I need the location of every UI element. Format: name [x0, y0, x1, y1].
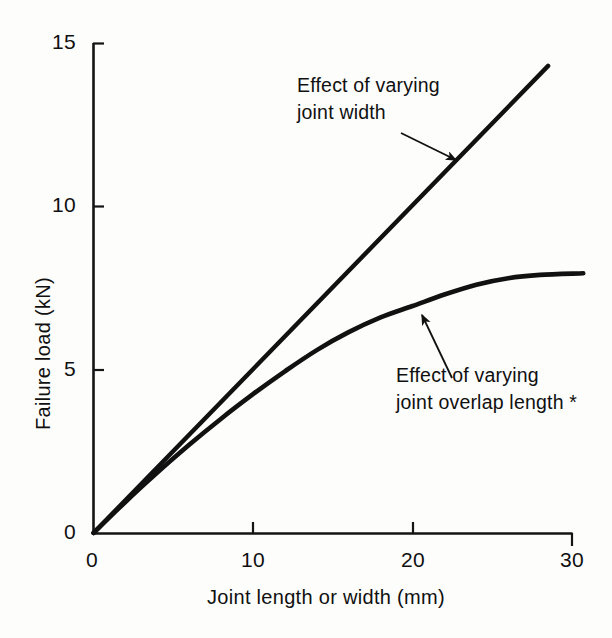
y-tick-label-0: 0 — [64, 520, 76, 544]
annotation-joint-width-line1: Effect of varying — [297, 72, 440, 99]
annotation-joint-overlap-line2: joint overlap length * — [396, 389, 577, 416]
annotation-joint-width: Effect of varying joint width — [297, 72, 440, 126]
annotation-joint-overlap: Effect of varying joint overlap length * — [396, 362, 577, 416]
x-tick-label-0: 0 — [86, 548, 98, 572]
x-tick-label-20: 20 — [401, 548, 425, 572]
x-tick-label-10: 10 — [241, 548, 265, 572]
y-tick-label-15: 15 — [52, 30, 76, 54]
y-tick-label-10: 10 — [52, 193, 76, 217]
annotation-arrow-joint-width — [401, 133, 456, 160]
x-axis-title: Joint length or width (mm) — [207, 586, 445, 609]
series-line-joint-width — [94, 66, 549, 533]
y-axis-title: Failure load (kN) — [32, 277, 55, 430]
annotation-joint-overlap-line1: Effect of varying — [396, 362, 577, 389]
y-tick-label-5: 5 — [64, 357, 76, 381]
annotation-joint-width-line2: joint width — [297, 99, 440, 126]
chart-figure: 15 10 5 0 0 10 20 30 Failure load (kN) J… — [0, 0, 612, 638]
x-tick-label-30: 30 — [560, 548, 584, 572]
